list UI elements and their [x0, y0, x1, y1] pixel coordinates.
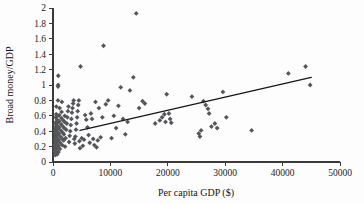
- data-point-marker: [86, 133, 91, 138]
- data-point-marker: [123, 132, 128, 137]
- data-point-marker: [103, 102, 108, 107]
- data-point-marker: [83, 113, 88, 118]
- y-tick-label: 2: [41, 3, 46, 13]
- data-point-marker: [67, 133, 72, 138]
- data-point-marker: [66, 104, 71, 109]
- data-point-marker: [221, 90, 226, 95]
- data-point-marker: [76, 98, 81, 103]
- data-point-marker: [72, 141, 77, 146]
- data-point-marker: [224, 115, 229, 120]
- x-tick-label: 40000: [271, 168, 295, 178]
- y-tick-label: 0: [41, 157, 46, 167]
- data-point-marker: [153, 121, 158, 126]
- regression-line: [80, 77, 311, 130]
- data-point-marker: [75, 115, 80, 120]
- data-point-marker: [206, 106, 211, 111]
- data-point-marker: [68, 129, 73, 134]
- x-tick-label: 30000: [213, 168, 237, 178]
- data-point-marker: [128, 88, 133, 93]
- data-point-marker: [131, 75, 136, 80]
- data-point-marker: [168, 116, 173, 121]
- data-point-marker: [69, 116, 74, 121]
- data-point-marker: [190, 94, 195, 99]
- data-point-marker: [66, 109, 71, 114]
- data-point-marker: [203, 103, 208, 108]
- data-point-marker: [67, 140, 72, 145]
- data-point-marker: [56, 98, 61, 103]
- x-tick-label: 20000: [156, 168, 180, 178]
- data-point-marker: [106, 98, 111, 103]
- data-point-marker: [209, 124, 214, 129]
- y-axis-title: Broad money/GDP: [4, 46, 15, 123]
- y-tick-label: 1: [41, 80, 46, 90]
- y-tick-label: 0.2: [34, 142, 46, 152]
- data-point-marker: [75, 109, 80, 114]
- data-point-marker: [212, 121, 217, 126]
- data-point-marker: [59, 100, 64, 105]
- data-point-marker: [215, 126, 220, 131]
- x-tick-label: 10000: [99, 168, 123, 178]
- data-point-marker: [84, 117, 89, 122]
- data-point-marker: [169, 120, 174, 125]
- x-tick-label: 0: [51, 168, 56, 178]
- data-point-marker: [101, 43, 106, 48]
- axis-ticks: [49, 8, 340, 166]
- data-point-marker: [97, 106, 102, 111]
- data-points: [52, 11, 312, 157]
- data-point-marker: [114, 126, 119, 131]
- data-point-marker: [167, 111, 172, 116]
- data-point-marker: [249, 128, 254, 133]
- y-tick-label: 1.2: [34, 65, 46, 75]
- data-point-marker: [68, 123, 73, 128]
- chart-figure: 0100002000030000400005000000.20.40.60.81…: [0, 0, 364, 204]
- data-point-marker: [137, 106, 142, 111]
- data-point-marker: [88, 111, 93, 116]
- data-point-marker: [70, 106, 75, 111]
- y-tick-label: 1.8: [34, 19, 46, 29]
- y-tick-label: 1.6: [34, 34, 46, 44]
- data-point-marker: [74, 127, 79, 132]
- data-point-marker: [71, 98, 76, 103]
- data-point-marker: [118, 85, 123, 90]
- data-point-marker: [98, 135, 103, 140]
- data-point-marker: [100, 115, 105, 120]
- y-tick-label: 0.6: [34, 111, 46, 121]
- y-tick-label: 1.4: [34, 50, 46, 60]
- data-point-marker: [163, 120, 168, 125]
- y-tick-label: 0.4: [34, 127, 46, 137]
- data-point-marker: [70, 110, 75, 115]
- data-point-marker: [109, 136, 114, 141]
- data-point-marker: [76, 103, 81, 108]
- data-point-marker: [74, 121, 79, 126]
- data-point-marker: [134, 11, 139, 16]
- data-point-marker: [95, 138, 100, 143]
- data-point-marker: [56, 73, 61, 78]
- axis-lines: [53, 8, 340, 162]
- data-point-marker: [87, 140, 92, 145]
- data-point-marker: [286, 71, 291, 76]
- data-point-marker: [93, 100, 98, 105]
- data-point-marker: [111, 113, 116, 118]
- data-point-marker: [303, 64, 308, 69]
- scatter-plot: 0100002000030000400005000000.20.40.60.81…: [0, 0, 364, 204]
- trend-line: [80, 77, 311, 130]
- data-point-marker: [164, 92, 169, 97]
- axis-tick-labels: 0100002000030000400005000000.20.40.60.81…: [34, 3, 352, 178]
- data-point-marker: [78, 64, 83, 69]
- data-point-marker: [90, 116, 95, 121]
- data-point-marker: [207, 111, 212, 116]
- data-point-marker: [91, 137, 96, 142]
- data-point-marker: [308, 83, 313, 88]
- y-tick-label: 0.8: [34, 96, 46, 106]
- data-point-marker: [116, 103, 121, 108]
- x-tick-label: 50000: [328, 168, 352, 178]
- x-axis-title: Per capita GDP ($): [158, 187, 234, 199]
